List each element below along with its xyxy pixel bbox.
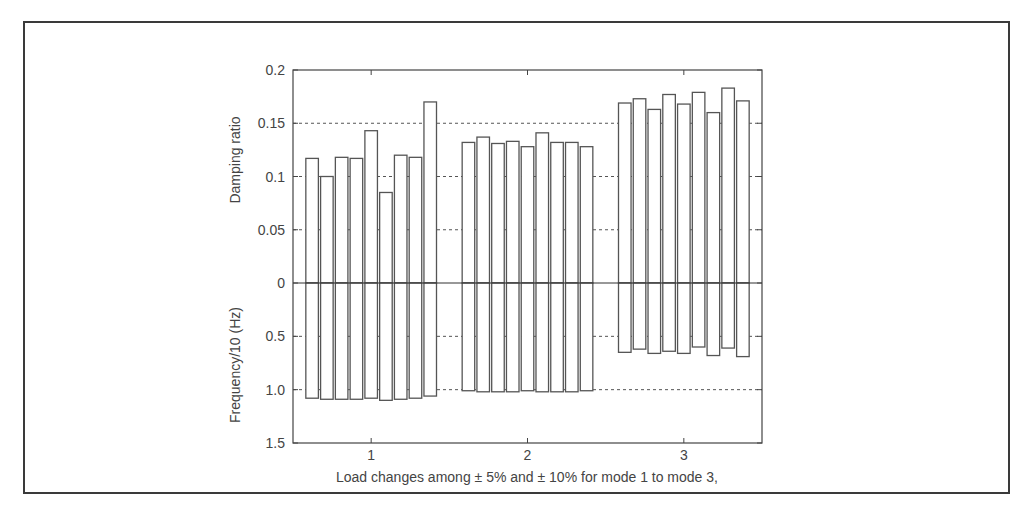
y-axis-label-lower: Frequency/10 (Hz) xyxy=(227,307,243,423)
bar-frequency xyxy=(633,283,646,349)
bar-frequency xyxy=(618,283,631,352)
bar-damping xyxy=(536,133,549,283)
bar-damping xyxy=(321,177,334,284)
bar-frequency xyxy=(424,283,437,396)
bar-damping xyxy=(707,113,720,283)
y-tick-label: 0.1 xyxy=(266,169,286,185)
bar-damping xyxy=(462,142,475,283)
bar-frequency xyxy=(663,283,676,351)
bar-damping xyxy=(521,147,534,283)
bar-damping xyxy=(566,142,579,283)
bar-frequency xyxy=(648,283,661,353)
bar-chart: 0.20.150.10.0500.51.01.5 123 Damping rat… xyxy=(0,0,1028,514)
bar-frequency xyxy=(409,283,422,398)
bar-frequency xyxy=(580,283,593,391)
bar-frequency xyxy=(678,283,691,353)
bar-frequency xyxy=(380,283,393,400)
bar-damping xyxy=(722,88,735,283)
bar-damping xyxy=(409,157,422,283)
bar-damping xyxy=(424,102,437,283)
bar-damping xyxy=(306,158,319,283)
bar-frequency xyxy=(536,283,549,392)
bar-damping xyxy=(663,94,676,283)
bar-frequency xyxy=(365,283,378,398)
bar-damping xyxy=(580,147,593,283)
bar-frequency xyxy=(737,283,750,357)
bar-series xyxy=(306,88,749,400)
bar-damping xyxy=(335,157,348,283)
bar-frequency xyxy=(335,283,348,399)
bar-damping xyxy=(692,92,705,283)
bar-frequency xyxy=(551,283,564,392)
bar-frequency xyxy=(477,283,490,392)
bar-frequency xyxy=(692,283,705,347)
y-axis-label-upper: Damping ratio xyxy=(227,116,243,203)
bar-damping xyxy=(678,104,691,283)
x-tick-label: 2 xyxy=(524,447,532,463)
bar-frequency xyxy=(321,283,334,399)
bar-damping xyxy=(477,137,490,283)
bar-damping xyxy=(618,103,631,283)
bar-damping xyxy=(394,155,407,283)
bar-damping xyxy=(633,99,646,283)
bar-frequency xyxy=(521,283,534,391)
bar-damping xyxy=(648,109,661,283)
bar-frequency xyxy=(350,283,363,399)
y-tick-label: 0.05 xyxy=(258,222,285,238)
y-tick-label: 0 xyxy=(277,275,285,291)
bar-frequency xyxy=(394,283,407,399)
bar-frequency xyxy=(492,283,505,392)
y-tick-label: 1.5 xyxy=(266,435,286,451)
y-tick-label: 0.15 xyxy=(258,115,285,131)
bar-damping xyxy=(506,141,519,283)
bar-damping xyxy=(492,143,505,283)
y-tick-label: 0.2 xyxy=(266,62,286,78)
bar-frequency xyxy=(566,283,579,392)
x-tick-label: 3 xyxy=(680,447,688,463)
bar-damping xyxy=(365,131,378,283)
bar-frequency xyxy=(707,283,720,356)
x-axis-label: Load changes among ± 5% and ± 10% for mo… xyxy=(336,469,718,485)
y-tick-label: 0.5 xyxy=(266,328,286,344)
bar-damping xyxy=(737,101,750,283)
y-tick-label: 1.0 xyxy=(266,382,286,398)
bar-frequency xyxy=(306,283,319,398)
bar-frequency xyxy=(506,283,519,392)
x-tick-label: 1 xyxy=(367,447,375,463)
bar-frequency xyxy=(462,283,475,391)
bar-damping xyxy=(551,142,564,283)
bar-damping xyxy=(380,192,393,283)
bar-damping xyxy=(350,158,363,283)
bar-frequency xyxy=(722,283,735,348)
